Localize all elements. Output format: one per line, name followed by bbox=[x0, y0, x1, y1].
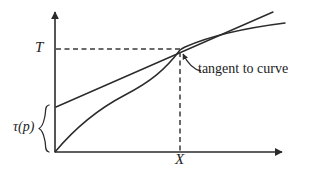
tau-intercept-label: τ(p) bbox=[13, 120, 34, 134]
concave-curve bbox=[55, 23, 285, 152]
tangent-annotation-label: tangent to curve bbox=[198, 62, 288, 76]
figure-container: T X τ(p) tangent to curve bbox=[0, 0, 309, 171]
x-value-label: X bbox=[175, 152, 184, 167]
curly-brace-icon bbox=[39, 105, 49, 152]
y-value-label: T bbox=[35, 40, 43, 55]
tangent-line bbox=[56, 12, 273, 107]
figure-canvas bbox=[0, 0, 309, 171]
